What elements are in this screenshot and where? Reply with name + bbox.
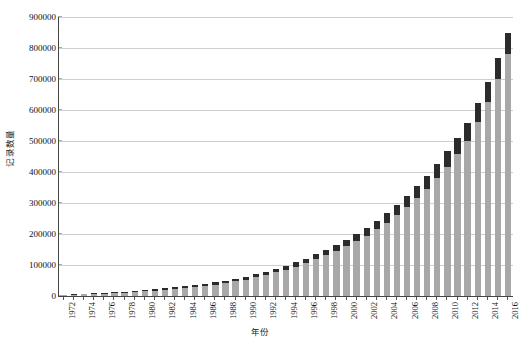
x-tick-mark bbox=[134, 297, 135, 300]
bar bbox=[464, 123, 470, 296]
bar bbox=[303, 259, 309, 297]
bar-segment-top bbox=[353, 234, 359, 241]
bar-segment-base bbox=[253, 277, 259, 296]
bar bbox=[192, 285, 198, 296]
bar bbox=[243, 277, 249, 296]
bar-segment-top bbox=[434, 164, 440, 178]
x-tick-mark bbox=[346, 297, 347, 300]
x-tick-mark bbox=[154, 297, 155, 300]
bar-segment-base bbox=[343, 246, 349, 296]
bar-segment-base bbox=[172, 289, 178, 296]
x-tick-label: 1980 bbox=[147, 302, 157, 319]
bar bbox=[273, 269, 279, 296]
y-tick-label: 600000 bbox=[14, 105, 56, 115]
bar-segment-base bbox=[101, 294, 107, 296]
bar-segment-top bbox=[374, 221, 380, 230]
bar bbox=[91, 293, 97, 296]
x-tick-mark bbox=[497, 297, 498, 300]
bar-segment-base bbox=[485, 102, 491, 296]
x-tick-label: 1986 bbox=[208, 302, 218, 319]
bar bbox=[444, 151, 450, 296]
x-tick-mark bbox=[204, 297, 205, 300]
bar bbox=[81, 294, 87, 296]
bar-segment-base bbox=[475, 122, 481, 296]
x-tick-mark bbox=[315, 297, 316, 300]
x-tick-label: 1974 bbox=[87, 302, 97, 319]
bar-segment-base bbox=[454, 154, 460, 296]
bar-segment-base bbox=[212, 285, 218, 296]
bar-segment-top bbox=[485, 82, 491, 102]
x-tick-mark bbox=[235, 297, 236, 300]
bar bbox=[364, 228, 370, 296]
bar bbox=[101, 293, 107, 296]
x-tick-mark bbox=[73, 297, 74, 300]
bar bbox=[505, 33, 511, 297]
bar bbox=[222, 281, 228, 296]
bar-segment-base bbox=[263, 275, 269, 296]
x-tick-mark bbox=[113, 297, 114, 300]
bar-segment-base bbox=[303, 263, 309, 296]
x-tick-mark bbox=[335, 297, 336, 300]
x-tick-mark bbox=[174, 297, 175, 300]
x-tick-mark bbox=[467, 297, 468, 300]
x-tick-mark bbox=[144, 297, 145, 300]
bar bbox=[353, 234, 359, 296]
bar-segment-base bbox=[192, 287, 198, 296]
bar-segment-base bbox=[333, 251, 339, 296]
x-tick-mark bbox=[457, 297, 458, 300]
bar-segment-base bbox=[495, 79, 501, 296]
bar-segment-base bbox=[404, 207, 410, 296]
bar-segment-top bbox=[384, 213, 390, 222]
x-tick-label: 2016 bbox=[510, 302, 520, 319]
bar bbox=[293, 262, 299, 296]
bar-segment-base bbox=[152, 291, 158, 296]
bar bbox=[111, 292, 117, 296]
x-tick-mark bbox=[124, 297, 125, 300]
x-tick-label: 2014 bbox=[490, 302, 500, 319]
x-tick-mark bbox=[477, 297, 478, 300]
y-tick-label: 400000 bbox=[14, 167, 56, 177]
x-tick-mark bbox=[507, 297, 508, 300]
bar-segment-top bbox=[444, 151, 450, 167]
y-tick-label: 300000 bbox=[14, 198, 56, 208]
x-tick-label: 1992 bbox=[268, 302, 278, 319]
bar bbox=[162, 288, 168, 296]
x-tick-label: 2012 bbox=[470, 302, 480, 319]
bar-segment-base bbox=[364, 236, 370, 296]
bar bbox=[434, 164, 440, 296]
x-tick-label: 1988 bbox=[228, 302, 238, 319]
x-tick-mark bbox=[406, 297, 407, 300]
x-tick-label: 2010 bbox=[450, 302, 460, 319]
bar-segment-base bbox=[505, 54, 511, 296]
bar-segment-base bbox=[464, 141, 470, 296]
x-tick-mark bbox=[265, 297, 266, 300]
x-tick-mark bbox=[356, 297, 357, 300]
x-tick-mark bbox=[285, 297, 286, 300]
x-tick-mark bbox=[487, 297, 488, 300]
bar-segment-base bbox=[414, 198, 420, 296]
x-tick-mark bbox=[103, 297, 104, 300]
bar bbox=[394, 205, 400, 296]
y-tick-label: 800000 bbox=[14, 43, 56, 53]
bar-segment-base bbox=[91, 294, 97, 296]
bar-segment-top bbox=[454, 138, 460, 155]
bar-segment-base bbox=[444, 167, 450, 296]
x-tick-mark bbox=[295, 297, 296, 300]
bar-segment-top bbox=[505, 33, 511, 55]
x-tick-mark bbox=[164, 297, 165, 300]
bar bbox=[212, 282, 218, 296]
bar-segment-base bbox=[273, 272, 279, 296]
bar bbox=[61, 295, 67, 296]
y-axis-ticks: 0100000200000300000400000500000600000700… bbox=[14, 17, 56, 296]
bar bbox=[323, 250, 329, 296]
bar bbox=[182, 286, 188, 296]
bar-segment-base bbox=[132, 292, 138, 296]
bar-segment-top bbox=[414, 186, 420, 198]
x-tick-mark bbox=[245, 297, 246, 300]
bar-segment-top bbox=[495, 58, 501, 79]
bar-segment-base bbox=[424, 189, 430, 296]
bar bbox=[454, 138, 460, 296]
x-tick-mark bbox=[376, 297, 377, 300]
bar bbox=[253, 274, 259, 296]
bar-segment-base bbox=[232, 281, 238, 296]
